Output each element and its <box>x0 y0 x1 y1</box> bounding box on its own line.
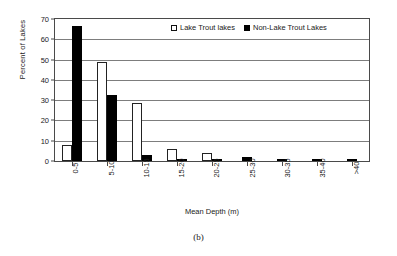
bar <box>202 153 212 161</box>
bar-group <box>55 19 90 161</box>
bar-group <box>160 19 195 161</box>
x-tick: 30-35 <box>265 162 300 206</box>
x-tick: 0-5 <box>54 162 89 206</box>
bar-groups <box>55 19 369 161</box>
bar <box>62 145 72 161</box>
figure-caption: (b) <box>0 232 397 242</box>
x-tick-label: 15-20 <box>177 158 186 177</box>
legend-entry: Non-Lake Trout Lakes <box>244 23 327 32</box>
bar-group <box>90 19 125 161</box>
x-axis-title: Mean Depth (m) <box>54 207 370 216</box>
x-axis-ticks: 0-55-1010-1515-2020-2525-3030-3535-40>40 <box>54 162 370 206</box>
y-tick-label: 20 <box>41 116 55 125</box>
bar <box>107 95 117 161</box>
bar <box>97 62 107 161</box>
plot-area: 010203040506070 <box>54 18 370 162</box>
y-tick-label: 30 <box>41 96 55 105</box>
legend-label: Lake Trout lakes <box>180 23 235 32</box>
x-tick-label: 25-30 <box>247 158 256 177</box>
white-square-icon <box>171 25 177 31</box>
chart-legend: Lake Trout lakesNon-Lake Trout Lakes <box>168 22 330 33</box>
x-tick-label: 0-5 <box>72 163 81 174</box>
bar-group <box>195 19 230 161</box>
x-tick: 15-20 <box>159 162 194 206</box>
y-tick-label: 40 <box>41 75 55 84</box>
y-tick-label: 60 <box>41 35 55 44</box>
x-tick: >40 <box>335 162 370 206</box>
x-tick-label: 5-10 <box>107 160 116 175</box>
bar <box>72 26 82 161</box>
legend-entry: Lake Trout lakes <box>171 23 235 32</box>
x-tick-label: 20-25 <box>212 158 221 177</box>
bar-group <box>299 19 334 161</box>
x-tick: 35-40 <box>300 162 335 206</box>
x-tick-label: 30-35 <box>282 158 291 177</box>
x-tick-label: 10-15 <box>142 158 151 177</box>
y-tick-label: 50 <box>41 55 55 64</box>
x-tick: 5-10 <box>89 162 124 206</box>
x-tick: 20-25 <box>194 162 229 206</box>
x-tick: 25-30 <box>230 162 265 206</box>
y-tick-label: 70 <box>41 15 55 24</box>
y-axis-title: Percent of Lakes <box>18 0 27 110</box>
figure: Percent of Lakes 010203040506070 0-55-10… <box>0 0 397 256</box>
bar <box>132 103 142 161</box>
bar-group <box>125 19 160 161</box>
bar-group <box>229 19 264 161</box>
x-tick-label: >40 <box>352 162 361 175</box>
bar-group <box>334 19 369 161</box>
bar-group <box>264 19 299 161</box>
black-square-icon <box>244 25 250 31</box>
x-tick: 10-15 <box>124 162 159 206</box>
legend-label: Non-Lake Trout Lakes <box>253 23 327 32</box>
y-tick-label: 10 <box>41 136 55 145</box>
x-tick-label: 35-40 <box>317 158 326 177</box>
